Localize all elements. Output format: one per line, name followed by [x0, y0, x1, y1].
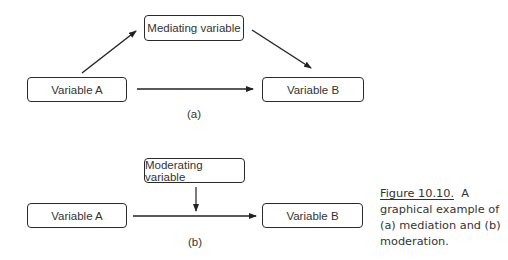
figure-caption: Figure 10.10. A graphical example of (a)…	[380, 186, 508, 250]
arrow-a-to-mediator	[82, 31, 136, 73]
figure-number: Figure 10.10.	[380, 187, 454, 200]
node-mediating-variable: Mediating variable	[144, 15, 244, 41]
node-label: Variable B	[287, 84, 339, 96]
node-label: Mediating variable	[147, 22, 240, 34]
arrow-mediator-to-b	[252, 30, 311, 68]
node-label: Variable B	[286, 210, 338, 222]
node-variable-b-moderation: Variable B	[262, 203, 363, 228]
diagram-a-label: (a)	[187, 108, 201, 120]
node-variable-a-mediation: Variable A	[27, 77, 127, 102]
node-label: Variable A	[51, 84, 103, 96]
node-variable-a-moderation: Variable A	[27, 203, 127, 228]
node-label: Moderating variable	[145, 159, 244, 183]
node-moderating-variable: Moderating variable	[144, 158, 245, 183]
node-variable-b-mediation: Variable B	[262, 77, 364, 102]
node-label: Variable A	[51, 210, 103, 222]
diagram-b-label: (b)	[188, 236, 202, 248]
